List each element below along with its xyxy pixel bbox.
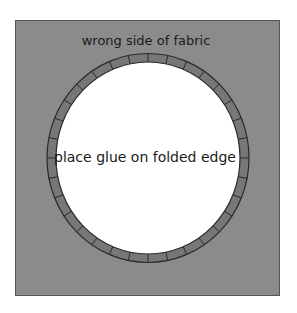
fabric-diagram: wrong side of fabric place glue on folde… <box>0 0 297 313</box>
center-label: place glue on folded edge <box>54 149 236 165</box>
fabric-label: wrong side of fabric <box>82 33 211 48</box>
diagram-svg: wrong side of fabric place glue on folde… <box>0 0 297 313</box>
